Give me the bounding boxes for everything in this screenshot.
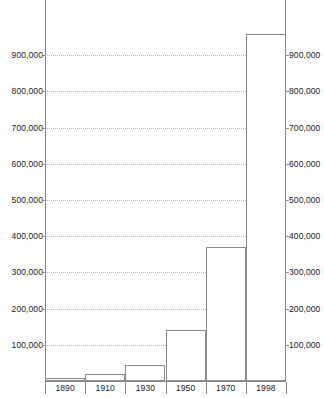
y-axis-tick-label-right: 200,000 (289, 305, 320, 314)
y-axis-tick-mark-right (286, 309, 289, 310)
y-axis-tick-mark-right (286, 236, 289, 237)
y-axis-tick-label-left: 900,000 (12, 51, 43, 60)
y-axis-tick-label-right: 700,000 (289, 124, 320, 133)
y-axis-tick-label-left: 100,000 (12, 341, 43, 350)
x-axis-tick-mark (286, 382, 287, 394)
y-axis-tick-mark-left (42, 91, 45, 92)
x-axis-tick-label: 1950 (166, 384, 206, 393)
y-axis-tick-label-right: 900,000 (289, 51, 320, 60)
bar (206, 247, 246, 381)
y-axis-tick-label-right: 300,000 (289, 268, 320, 277)
y-axis-tick-label-left: 600,000 (12, 160, 43, 169)
y-axis-left (45, 0, 46, 382)
y-axis-tick-mark-right (286, 200, 289, 201)
y-axis-tick-mark-left (42, 128, 45, 129)
y-axis-tick-mark-left (42, 55, 45, 56)
y-axis-tick-mark-left (42, 236, 45, 237)
y-axis-tick-mark-right (286, 345, 289, 346)
x-axis-tick-mark (85, 382, 86, 394)
x-axis-tick-label: 1930 (125, 384, 165, 393)
y-axis-tick-label-left: 200,000 (12, 305, 43, 314)
y-axis-tick-label-left: 700,000 (12, 124, 43, 133)
y-axis-tick-label-right: 600,000 (289, 160, 320, 169)
bar (166, 330, 206, 381)
y-axis-tick-mark-right (286, 272, 289, 273)
y-axis-tick-mark-left (42, 345, 45, 346)
y-axis-right (285, 0, 286, 382)
bar (246, 34, 286, 381)
y-axis-tick-label-left: 400,000 (12, 232, 43, 241)
x-axis-tick-mark (166, 382, 167, 394)
y-axis-tick-mark-left (42, 200, 45, 201)
y-axis-tick-mark-right (286, 91, 289, 92)
bar (125, 365, 165, 381)
x-axis-tick-mark (246, 382, 247, 394)
y-axis-tick-label-left: 300,000 (12, 268, 43, 277)
bar (85, 374, 125, 381)
x-axis-tick-label: 1890 (45, 384, 85, 393)
y-axis-tick-label-left: 500,000 (12, 196, 43, 205)
x-axis-tick-label: 1998 (246, 384, 286, 393)
y-axis-tick-mark-left (42, 164, 45, 165)
y-axis-tick-label-right: 400,000 (289, 232, 320, 241)
y-axis-tick-label-right: 500,000 (289, 196, 320, 205)
y-axis-tick-mark-left (42, 309, 45, 310)
y-axis-tick-label-right: 100,000 (289, 341, 320, 350)
y-axis-tick-mark-right (286, 128, 289, 129)
x-axis-tick-label: 1910 (85, 384, 125, 393)
y-axis-tick-mark-left (42, 272, 45, 273)
y-axis-tick-mark-right (286, 55, 289, 56)
x-axis-tick-mark (45, 382, 46, 394)
y-axis-tick-mark-right (286, 164, 289, 165)
x-axis-tick-label: 1970 (206, 384, 246, 393)
y-axis-tick-label-left: 800,000 (12, 87, 43, 96)
y-axis-tick-label-right: 800,000 (289, 87, 320, 96)
x-axis-tick-mark (125, 382, 126, 394)
bar-chart: 100,000200,000300,000400,000500,000600,0… (0, 0, 324, 398)
x-axis-tick-mark (206, 382, 207, 394)
